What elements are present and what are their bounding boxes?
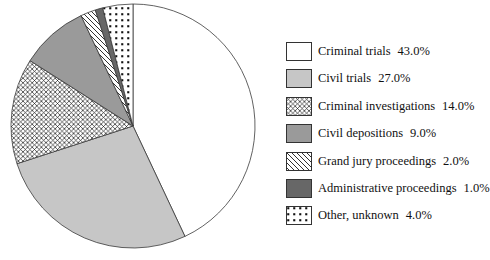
legend-item: Civil depositions9.0% <box>286 124 490 143</box>
legend-value: 2.0% <box>443 154 469 168</box>
legend-value: 27.0% <box>378 71 410 85</box>
legend-swatch-none <box>286 69 312 88</box>
pie-chart <box>0 0 280 260</box>
legend-label: Criminal investigations <box>318 99 435 113</box>
legend-item: Other, unknown4.0% <box>286 206 490 225</box>
legend-swatch-diagonal-lines <box>286 152 312 171</box>
legend-value: 14.0% <box>442 99 474 113</box>
legend-label: Civil depositions <box>318 126 403 140</box>
legend-item: Criminal trials43.0% <box>286 42 490 61</box>
legend-label: Administrative proceedings <box>318 181 457 195</box>
legend-value: 1.0% <box>464 181 490 195</box>
pie-legend: Criminal trials43.0%Civil trials27.0%Cri… <box>286 42 490 225</box>
legend-swatch-dots <box>286 206 312 225</box>
legend-swatch-none <box>286 42 312 61</box>
legend-item: Grand jury proceedings2.0% <box>286 152 490 171</box>
pie-slices <box>11 4 255 248</box>
legend-value: 43.0% <box>398 44 430 58</box>
legend-swatch-crosshatch <box>286 97 312 116</box>
legend-swatch-none <box>286 124 312 143</box>
legend-label: Other, unknown <box>318 208 399 222</box>
legend-item: Administrative proceedings1.0% <box>286 179 490 198</box>
legend-label: Criminal trials <box>318 44 391 58</box>
legend-value: 4.0% <box>406 208 432 222</box>
legend-swatch-none <box>286 179 312 198</box>
legend-value: 9.0% <box>410 126 436 140</box>
legend-label: Grand jury proceedings <box>318 154 436 168</box>
legend-item: Civil trials27.0% <box>286 69 490 88</box>
legend-item: Criminal investigations14.0% <box>286 97 490 116</box>
legend-label: Civil trials <box>318 71 371 85</box>
